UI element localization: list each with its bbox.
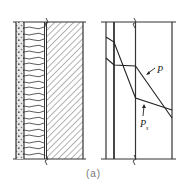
masonry-layer bbox=[47, 22, 83, 159]
insulation-layer bbox=[24, 27, 44, 155]
wall-section-diagram bbox=[13, 18, 86, 165]
label-p: P bbox=[157, 64, 163, 75]
plaster-layer bbox=[16, 22, 24, 159]
figure-caption: (a) bbox=[0, 168, 187, 179]
pressure-distribution-diagram bbox=[101, 18, 176, 165]
label-ps: Ps bbox=[140, 118, 148, 131]
figure-canvas bbox=[0, 0, 187, 190]
